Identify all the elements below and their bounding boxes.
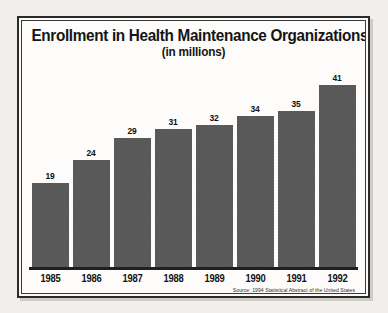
bar-column-1991: 35 (278, 65, 315, 267)
bar-rect (114, 138, 151, 267)
bar-value-label: 34 (251, 104, 260, 114)
bar-rect (155, 129, 192, 267)
chart-page: Enrollment in Health Maintenance Organiz… (0, 0, 388, 313)
x-tick-label: 1992 (320, 273, 354, 285)
bar-value-label: 29 (128, 126, 137, 136)
bar-rect (237, 116, 274, 267)
x-tick-label: 1991 (279, 273, 313, 285)
bar-rect (73, 160, 110, 267)
x-axis-tick-labels: 1985 1986 1987 1988 1989 1990 1991 1992 (32, 273, 356, 285)
bar-group: 19 24 29 31 (32, 65, 356, 267)
bar-value-label: 31 (169, 117, 178, 127)
bar-value-label: 35 (292, 99, 301, 109)
x-axis-baseline (29, 267, 358, 270)
bar-column-1985: 19 (32, 65, 69, 267)
bar-column-1989: 32 (196, 65, 233, 267)
chart-subtitle: (in millions) (31, 45, 357, 60)
chart-title-block: Enrollment in Health Maintenance Organiz… (22, 26, 365, 60)
x-tick-label: 1988 (156, 273, 190, 285)
chart-plot-area: Enrollment in Health Maintenance Organiz… (22, 21, 365, 293)
bars-container: 19 24 29 31 (32, 65, 356, 267)
bar-value-label: 19 (46, 171, 55, 181)
bar-rect (278, 111, 315, 267)
x-tick-label: 1989 (197, 273, 231, 285)
bar-column-1992: 41 (319, 65, 356, 267)
bar-column-1990: 34 (237, 65, 274, 267)
chart-frame-inner: Enrollment in Health Maintenance Organiz… (21, 20, 366, 294)
bar-value-label: 32 (210, 113, 219, 123)
chart-frame-outer: Enrollment in Health Maintenance Organiz… (17, 16, 370, 298)
bar-column-1986: 24 (73, 65, 110, 267)
source-attribution: Source: 1994 Statistical Abstract of the… (233, 287, 355, 293)
x-tick-label: 1986 (74, 273, 108, 285)
bar-column-1987: 29 (114, 65, 151, 267)
bar-column-1988: 31 (155, 65, 192, 267)
x-tick-label: 1987 (115, 273, 149, 285)
x-tick-label: 1985 (33, 273, 67, 285)
bar-value-label: 41 (333, 73, 342, 83)
bar-rect (319, 85, 356, 267)
bar-rect (32, 183, 69, 267)
chart-title: Enrollment in Health Maintenance Organiz… (31, 26, 355, 45)
bar-rect (196, 125, 233, 267)
x-tick-label: 1990 (238, 273, 272, 285)
bar-value-label: 24 (87, 148, 96, 158)
